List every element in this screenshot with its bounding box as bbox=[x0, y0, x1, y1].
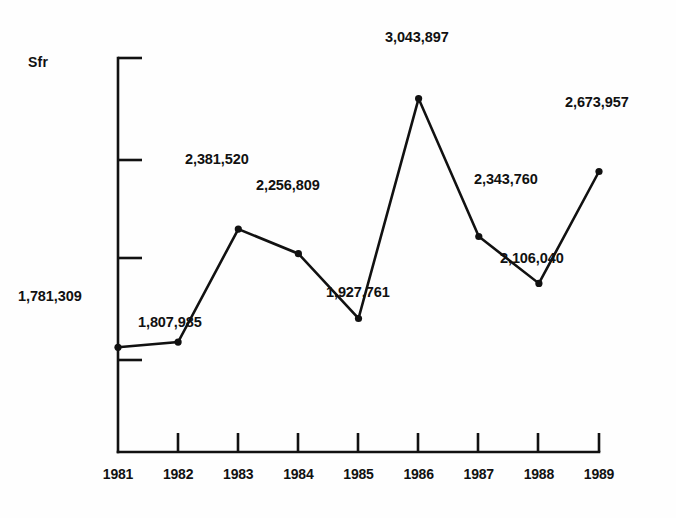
x-axis-tick-label: 1983 bbox=[212, 466, 264, 482]
x-axis-tick-label: 1989 bbox=[573, 466, 625, 482]
data-point-value-label: 2,343,760 bbox=[474, 171, 538, 187]
data-point-marker bbox=[475, 233, 482, 240]
x-axis-tick-label: 1988 bbox=[513, 466, 565, 482]
data-point-markers bbox=[114, 95, 602, 351]
data-point-value-label: 1,781,309 bbox=[18, 288, 82, 304]
data-point-value-label: 2,256,809 bbox=[256, 177, 320, 193]
data-point-value-label: 2,106,040 bbox=[500, 250, 564, 266]
x-axis-tick-label: 1981 bbox=[92, 466, 144, 482]
data-point-value-label: 3,043,897 bbox=[385, 29, 449, 45]
chart-canvas bbox=[0, 0, 676, 518]
x-axis-tick-label: 1984 bbox=[272, 466, 324, 482]
data-point-marker bbox=[535, 280, 542, 287]
x-axis-tick-label: 1986 bbox=[393, 466, 445, 482]
data-point-marker bbox=[295, 250, 302, 257]
x-axis-tick-label: 1987 bbox=[453, 466, 505, 482]
data-point-value-label: 2,673,957 bbox=[565, 94, 629, 110]
x-axis-ticks bbox=[178, 433, 599, 452]
data-point-marker bbox=[235, 226, 242, 233]
data-point-value-label: 1,927,761 bbox=[326, 284, 390, 300]
data-point-value-label: 1,807,985 bbox=[138, 314, 202, 330]
y-axis-unit-label: Sfr bbox=[28, 54, 48, 70]
data-point-marker bbox=[415, 95, 422, 102]
x-axis-tick-label: 1982 bbox=[152, 466, 204, 482]
x-axis-tick-label: 1985 bbox=[333, 466, 385, 482]
data-series-line bbox=[118, 99, 599, 348]
data-point-marker bbox=[114, 344, 121, 351]
line-chart-figure: Sfr 198119821983198419851986198719881989… bbox=[0, 0, 676, 518]
data-point-value-label: 2,381,520 bbox=[185, 151, 249, 167]
data-point-marker bbox=[355, 315, 362, 322]
data-point-marker bbox=[175, 339, 182, 346]
data-point-marker bbox=[595, 168, 602, 175]
